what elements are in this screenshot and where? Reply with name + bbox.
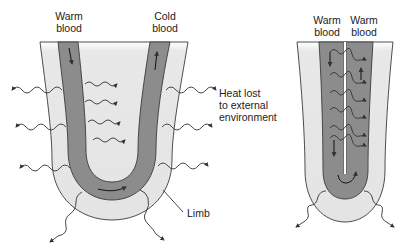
- right-limb-diagram: [296, 42, 394, 227]
- label-line: to external: [219, 99, 277, 111]
- label-limb: Limb: [187, 207, 210, 219]
- label-line: environment: [219, 111, 277, 123]
- limb-pointer-line: [163, 190, 183, 212]
- label-warm-blood-left: Warm blood: [49, 10, 89, 34]
- label-line: Warm: [49, 10, 89, 22]
- label-line: Heat lost: [219, 87, 277, 99]
- label-warm-blood-right-b: Warm blood: [346, 14, 382, 38]
- label-line: Warm: [346, 14, 382, 26]
- label-warm-blood-right-a: Warm blood: [309, 14, 345, 38]
- left-limb-diagram: [12, 42, 216, 242]
- label-line: blood: [49, 22, 89, 34]
- label-line: Cold: [145, 10, 185, 22]
- label-line: blood: [309, 26, 345, 38]
- label-cold-blood: Cold blood: [145, 10, 185, 34]
- label-line: blood: [346, 26, 382, 38]
- label-line: blood: [145, 22, 185, 34]
- label-line: Warm: [309, 14, 345, 26]
- label-heat-lost: Heat lost to external environment: [219, 87, 277, 123]
